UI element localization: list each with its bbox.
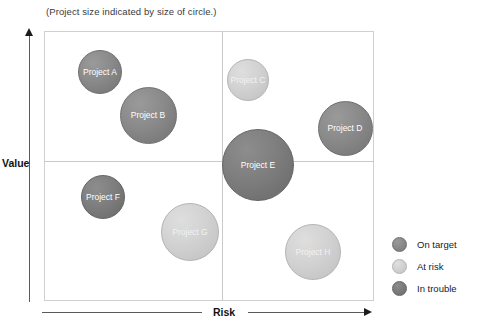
bubble-label: Project H — [296, 248, 331, 257]
y-axis-label: Value — [2, 157, 29, 169]
quadrant-divider-horizontal — [44, 161, 374, 162]
bubble-project-c[interactable]: Project C — [227, 59, 269, 101]
bubble-project-g[interactable]: Project G — [161, 203, 219, 261]
bubble-label: Project C — [231, 76, 266, 85]
bubble-label: Project G — [172, 228, 207, 237]
bubble-project-d[interactable]: Project D — [318, 101, 373, 156]
x-axis-line-right — [248, 312, 366, 313]
x-axis-arrowhead-icon — [364, 308, 372, 316]
legend-item-on-target[interactable]: On target — [392, 233, 457, 255]
legend-item-in-trouble[interactable]: In trouble — [392, 277, 457, 299]
x-axis-label: Risk — [207, 306, 241, 318]
bubble-project-e[interactable]: Project E — [222, 129, 294, 201]
x-axis-line-left — [42, 312, 202, 313]
bubble-project-h[interactable]: Project H — [285, 224, 341, 280]
legend-item-label: On target — [417, 239, 457, 250]
bubble-project-b[interactable]: Project B — [120, 87, 177, 144]
chart-legend: On targetAt riskIn trouble — [392, 233, 457, 299]
bubble-project-f[interactable]: Project F — [81, 175, 125, 219]
bubble-chart: (Project size indicated by size of circl… — [0, 0, 478, 332]
y-axis-arrowhead-icon — [25, 28, 33, 36]
legend-item-label: At risk — [417, 261, 443, 272]
legend-item-label: In trouble — [417, 283, 457, 294]
bubble-label: Project F — [86, 193, 120, 202]
legend-item-at-risk[interactable]: At risk — [392, 255, 457, 277]
bubble-project-a[interactable]: Project A — [78, 50, 122, 94]
bubble-label: Project D — [328, 124, 363, 133]
legend-swatch-icon — [392, 281, 407, 296]
bubble-label: Project E — [241, 161, 276, 170]
bubble-label: Project B — [131, 111, 166, 120]
bubble-label: Project A — [83, 68, 117, 77]
legend-swatch-icon — [392, 259, 407, 274]
chart-caption: (Project size indicated by size of circl… — [46, 6, 217, 17]
legend-swatch-icon — [392, 237, 407, 252]
